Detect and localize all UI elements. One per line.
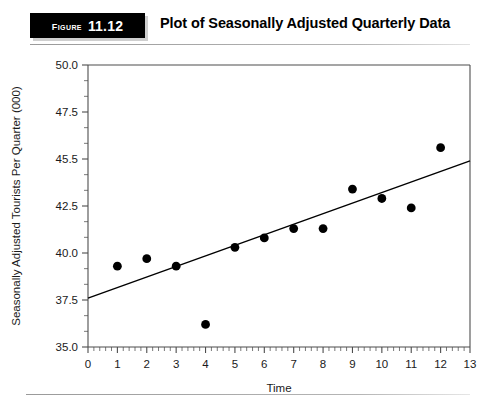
svg-text:9: 9 [349, 358, 355, 370]
x-axis-tick-labels: 012345678910111213 [85, 358, 477, 370]
data-point [201, 320, 210, 329]
data-point [348, 185, 357, 194]
svg-text:0: 0 [85, 358, 91, 370]
data-points [113, 143, 445, 329]
y-axis-ticks [82, 65, 88, 347]
svg-text:42.5: 42.5 [56, 200, 78, 212]
figure-header: Figure 11.12 Plot of Seasonally Adjusted… [0, 0, 497, 46]
svg-text:47.5: 47.5 [56, 106, 78, 118]
data-point [436, 143, 445, 152]
svg-text:3: 3 [173, 358, 179, 370]
figure-badge: Figure 11.12 [30, 13, 145, 38]
data-point [172, 262, 181, 271]
svg-text:35.0: 35.0 [56, 341, 78, 353]
data-point [377, 194, 386, 203]
svg-text:45.5: 45.5 [56, 153, 78, 165]
svg-text:50.0: 50.0 [56, 59, 78, 71]
svg-text:5: 5 [232, 358, 238, 370]
figure-badge-number: 11.12 [88, 18, 123, 34]
data-point [407, 203, 416, 212]
data-point [113, 262, 122, 271]
svg-text:7: 7 [290, 358, 296, 370]
svg-text:2: 2 [144, 358, 150, 370]
svg-text:1: 1 [114, 358, 120, 370]
trend-line [88, 161, 470, 298]
figure-badge-word: Figure [52, 18, 82, 33]
header-divider [30, 44, 470, 45]
y-axis-tick-labels: 35.037.540.042.545.547.550.0 [56, 59, 78, 353]
svg-text:4: 4 [202, 358, 209, 370]
data-point [142, 254, 151, 263]
svg-text:6: 6 [261, 358, 267, 370]
figure-title: Plot of Seasonally Adjusted Quarterly Da… [160, 15, 450, 31]
svg-text:10: 10 [375, 358, 388, 370]
scatter-plot: 35.037.540.042.545.547.550.0 01234567891… [0, 46, 497, 394]
svg-text:11: 11 [405, 358, 417, 370]
svg-text:8: 8 [320, 358, 326, 370]
data-point [260, 234, 269, 243]
x-axis-ticks [88, 347, 470, 353]
y-axis-title: Seasonally Adjusted Tourists Per Quarter… [10, 86, 22, 326]
x-axis-title: Time [266, 382, 291, 394]
svg-text:40.0: 40.0 [56, 247, 78, 259]
data-point [289, 224, 298, 233]
svg-text:37.5: 37.5 [56, 294, 78, 306]
data-point [231, 243, 240, 252]
svg-text:13: 13 [464, 358, 477, 370]
svg-text:12: 12 [434, 358, 447, 370]
footer-divider [26, 394, 470, 395]
data-point [319, 224, 328, 233]
chart-area: 35.037.540.042.545.547.550.0 01234567891… [0, 46, 497, 394]
